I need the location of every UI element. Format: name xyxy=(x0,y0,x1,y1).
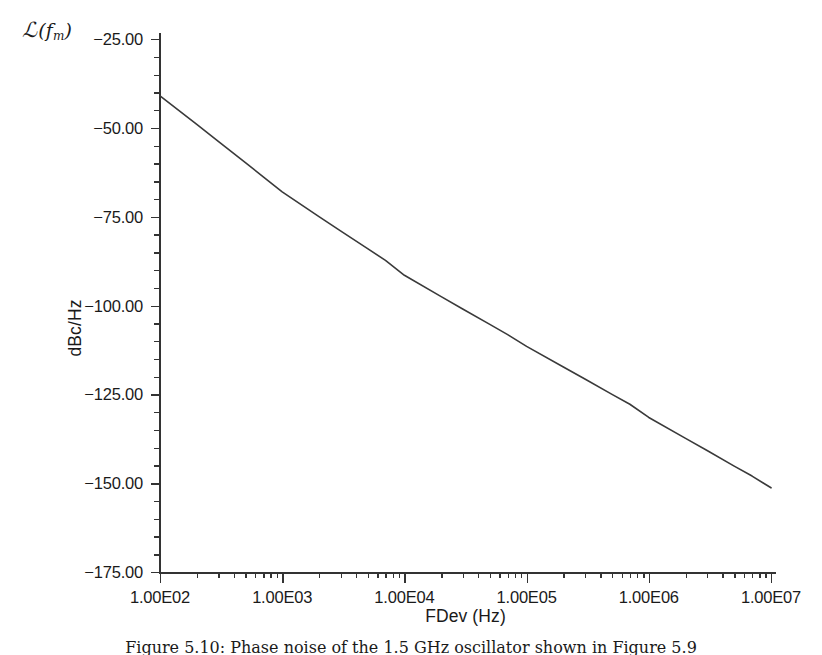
y-tick-major xyxy=(151,128,160,129)
x-tick-minor xyxy=(563,572,564,578)
x-tick-minor xyxy=(686,572,687,578)
x-tick-minor xyxy=(612,572,613,578)
x-tick-minor xyxy=(377,572,378,578)
x-tick-minor xyxy=(600,572,601,578)
curve-polyline xyxy=(160,96,771,488)
x-tick-minor xyxy=(643,572,644,578)
y-tick-major xyxy=(151,306,160,307)
x-tick-minor xyxy=(630,572,631,578)
x-tick-minor xyxy=(341,572,342,578)
x-tick-minor xyxy=(463,572,464,578)
y-tick-label: −75.00 xyxy=(93,207,143,226)
x-tick-minor xyxy=(508,572,509,578)
phase-noise-symbol: ℒ(fm) xyxy=(22,18,72,43)
x-tick-minor xyxy=(197,572,198,578)
y-tick-major xyxy=(151,217,160,218)
x-tick-major xyxy=(404,572,405,583)
x-tick-minor xyxy=(393,572,394,578)
x-tick-label: 1.00E07 xyxy=(741,588,801,607)
subscript-m: m xyxy=(53,29,64,43)
x-tick-minor xyxy=(499,572,500,578)
x-tick-minor xyxy=(744,572,745,578)
script-l-glyph: ℒ xyxy=(22,18,38,42)
x-tick-label: 1.00E04 xyxy=(374,588,434,607)
x-tick-minor xyxy=(441,572,442,578)
x-tick-label: 1.00E05 xyxy=(497,588,557,607)
x-tick-label: 1.00E06 xyxy=(619,588,679,607)
plot-area: −25.00−50.00−75.00−100.00−125.00−150.00−… xyxy=(160,39,771,572)
x-tick-minor xyxy=(319,572,320,578)
figure-caption: Figure 5.10: Phase noise of the 1.5 GHz … xyxy=(60,638,762,655)
x-tick-minor xyxy=(245,572,246,578)
x-tick-major xyxy=(649,572,650,583)
y-tick-label: −25.00 xyxy=(93,30,143,49)
x-tick-minor xyxy=(385,572,386,578)
x-tick-label: 1.00E02 xyxy=(130,588,190,607)
y-tick-major xyxy=(151,394,160,395)
x-tick-major xyxy=(160,572,161,583)
y-tick-label: −175.00 xyxy=(84,563,143,582)
x-tick-minor xyxy=(270,572,271,578)
x-tick-minor xyxy=(368,572,369,578)
x-tick-minor xyxy=(234,572,235,578)
x-tick-minor xyxy=(707,572,708,578)
x-tick-minor xyxy=(218,572,219,578)
y-tick-major xyxy=(151,572,160,573)
x-tick-minor xyxy=(277,572,278,578)
y-tick-label: −125.00 xyxy=(84,385,143,404)
y-tick-major xyxy=(151,39,160,40)
x-tick-minor xyxy=(356,572,357,578)
x-tick-minor xyxy=(622,572,623,578)
x-tick-minor xyxy=(399,572,400,578)
x-tick-minor xyxy=(752,572,753,578)
phase-noise-curve xyxy=(160,39,771,572)
x-tick-minor xyxy=(521,572,522,578)
x-tick-minor xyxy=(759,572,760,578)
x-tick-minor xyxy=(734,572,735,578)
x-tick-major xyxy=(527,572,528,583)
x-tick-minor xyxy=(255,572,256,578)
open-paren: ( xyxy=(38,19,46,41)
x-tick-minor xyxy=(478,572,479,578)
x-tick-minor xyxy=(637,572,638,578)
y-tick-label: −50.00 xyxy=(93,118,143,137)
x-axis-line xyxy=(159,572,776,574)
variable-f: f xyxy=(46,19,53,41)
y-tick-label: −150.00 xyxy=(84,474,143,493)
x-tick-minor xyxy=(585,572,586,578)
y-axis-title: dBc/Hz xyxy=(65,299,86,356)
x-tick-major xyxy=(771,572,772,583)
x-tick-minor xyxy=(263,572,264,578)
x-tick-major xyxy=(282,572,283,583)
y-tick-major xyxy=(151,483,160,484)
x-tick-minor xyxy=(722,572,723,578)
x-tick-minor xyxy=(515,572,516,578)
y-tick-label: −100.00 xyxy=(84,296,143,315)
figure-page: ℒ(fm) dBc/Hz FDev (Hz) −25.00−50.00−75.0… xyxy=(0,0,822,655)
close-paren: ) xyxy=(64,19,72,41)
x-axis-title: FDev (Hz) xyxy=(160,606,771,627)
x-tick-minor xyxy=(490,572,491,578)
x-tick-label: 1.00E03 xyxy=(252,588,312,607)
x-tick-minor xyxy=(765,572,766,578)
